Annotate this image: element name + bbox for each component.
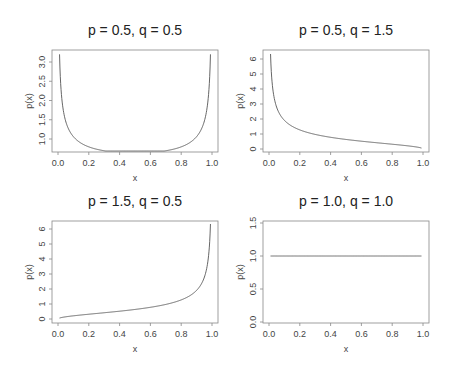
y-tick-label: 3 [248, 101, 258, 106]
y-tick-label: 1.5 [37, 113, 47, 126]
y-tick-label: 0 [37, 316, 47, 321]
plot-frame [263, 50, 429, 152]
y-axis-label: p(x) [24, 93, 34, 109]
y-tick-label: 1 [248, 131, 258, 136]
x-axis-label: x [344, 173, 349, 183]
x-tick-label: 1.0 [417, 329, 430, 339]
plot-frame [52, 221, 218, 323]
y-axis-label: p(x) [24, 264, 34, 280]
panel-2: p = 0.5, q = 1.50.00.20.40.60.81.0x01234… [235, 22, 429, 183]
x-tick-label: 0.0 [263, 329, 276, 339]
y-tick-label: 2.5 [37, 75, 47, 88]
x-axis-label: x [133, 173, 138, 183]
y-tick-label: 2.0 [37, 94, 47, 107]
x-tick-label: 0.2 [83, 158, 96, 168]
x-tick-label: 0.6 [355, 329, 368, 339]
x-axis-label: x [344, 344, 349, 354]
panel-1: p = 0.5, q = 0.50.00.20.40.60.81.0x1.01.… [24, 22, 218, 183]
y-tick-label: 5 [37, 241, 47, 246]
x-tick-label: 1.0 [206, 158, 219, 168]
y-tick-label: 1.5 [248, 217, 258, 230]
y-axis-label: p(x) [235, 264, 245, 280]
x-tick-label: 0.0 [52, 329, 65, 339]
panel-title: p = 1.0, q = 1.0 [299, 193, 393, 209]
y-tick-label: 1.0 [37, 133, 47, 146]
y-tick-label: 0 [248, 146, 258, 151]
panel-3: p = 1.5, q = 0.50.00.20.40.60.81.0x01234… [24, 193, 218, 354]
plot-frame [263, 221, 429, 323]
y-tick-label: 3.0 [37, 56, 47, 69]
density-curve [60, 224, 211, 318]
y-tick-label: 1 [37, 301, 47, 306]
x-tick-label: 0.2 [294, 329, 307, 339]
x-tick-label: 0.4 [113, 329, 126, 339]
panel-title: p = 0.5, q = 1.5 [299, 22, 393, 38]
y-tick-label: 4 [37, 256, 47, 261]
x-tick-label: 0.4 [324, 158, 337, 168]
y-tick-label: 6 [248, 56, 258, 61]
x-tick-label: 0.6 [144, 329, 157, 339]
y-tick-label: 2 [37, 286, 47, 291]
y-tick-label: 3 [37, 271, 47, 276]
y-tick-label: 1.0 [248, 250, 258, 263]
panel-title: p = 0.5, q = 0.5 [88, 22, 182, 38]
x-tick-label: 0.6 [144, 158, 157, 168]
x-tick-label: 0.8 [175, 329, 188, 339]
panel-4: p = 1.0, q = 1.00.00.20.40.60.81.0x0.00.… [235, 193, 429, 354]
x-tick-label: 0.8 [386, 329, 399, 339]
x-tick-label: 0.4 [113, 158, 126, 168]
x-tick-label: 0.4 [324, 329, 337, 339]
x-tick-label: 0.2 [83, 329, 96, 339]
y-tick-label: 6 [37, 226, 47, 231]
y-tick-label: 4 [248, 86, 258, 91]
x-tick-label: 0.0 [52, 158, 65, 168]
x-tick-label: 1.0 [206, 329, 219, 339]
y-axis-label: p(x) [235, 93, 245, 109]
x-tick-label: 1.0 [417, 158, 430, 168]
x-axis-label: x [133, 344, 138, 354]
x-tick-label: 0.8 [175, 158, 188, 168]
density-curve [271, 54, 422, 148]
x-tick-label: 0.6 [355, 158, 368, 168]
beta-density-figure: p = 0.5, q = 0.50.00.20.40.60.81.0x1.01.… [0, 0, 451, 367]
y-tick-label: 0.0 [248, 316, 258, 329]
panel-title: p = 1.5, q = 0.5 [88, 193, 182, 209]
x-tick-label: 0.0 [263, 158, 276, 168]
plot-frame [52, 50, 218, 152]
y-tick-label: 0.5 [248, 283, 258, 296]
density-curve [60, 54, 211, 151]
y-tick-label: 5 [248, 71, 258, 76]
x-tick-label: 0.2 [294, 158, 307, 168]
x-tick-label: 0.8 [386, 158, 399, 168]
y-tick-label: 2 [248, 116, 258, 121]
